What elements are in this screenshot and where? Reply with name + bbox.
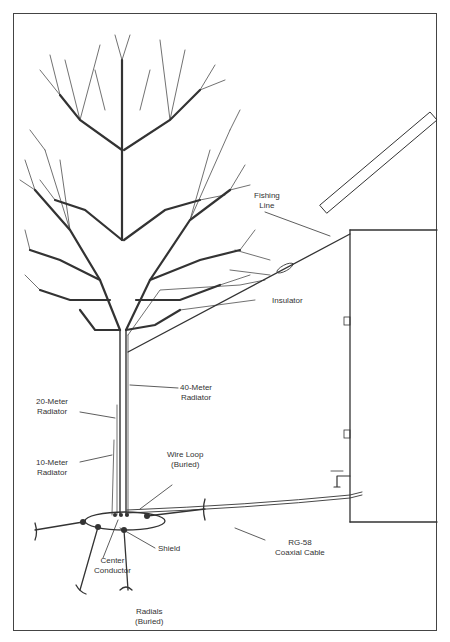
label-40m-radiator: 40-Meter Radiator [180, 383, 212, 403]
label-center-conductor: Center Conductor [94, 556, 131, 576]
label-coax-cable: RG-58 Coaxial Cable [275, 538, 325, 558]
coax-cable [127, 492, 362, 510]
label-insulator: Insulator [272, 296, 303, 306]
label-radials: Radials (Buried) [135, 607, 163, 627]
label-fishing-line: Fishing Line [254, 191, 280, 211]
tree-icon [20, 35, 270, 515]
label-20m-radiator: 20-Meter Radiator [36, 397, 68, 417]
house-icon [320, 112, 437, 522]
label-10m-radiator: 10-Meter Radiator [36, 458, 68, 478]
antenna-diagram-drawing [0, 0, 450, 642]
label-wire-loop: Wire Loop (Buried) [167, 450, 203, 470]
label-shield: Shield [158, 544, 180, 554]
fishing-line [128, 234, 350, 352]
